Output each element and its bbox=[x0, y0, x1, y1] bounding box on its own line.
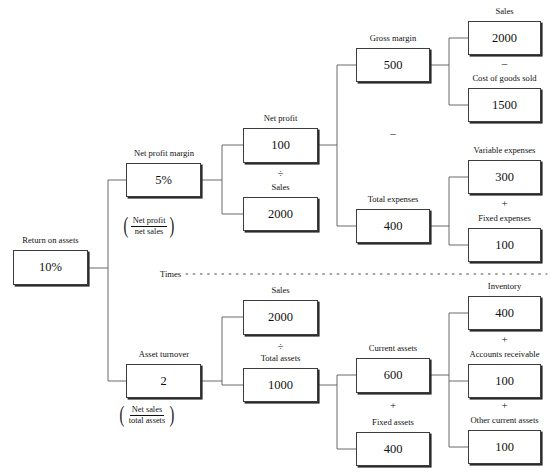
caption-return-on-assets: Return on assets bbox=[13, 236, 88, 245]
operator-divide-asset-turnover: ÷ bbox=[243, 341, 318, 352]
caption-net-profit: Net profit bbox=[243, 114, 318, 123]
node-total-expenses[interactable]: 400 bbox=[356, 209, 430, 243]
caption-total-expenses: Total expenses bbox=[350, 195, 436, 204]
operator-plus-current-fixed-assets: + bbox=[356, 400, 430, 411]
node-sales-bottom[interactable]: 2000 bbox=[243, 300, 318, 335]
node-return-on-assets[interactable]: 10% bbox=[13, 250, 88, 285]
formula-denominator-npm: net sales bbox=[133, 227, 166, 237]
operator-divide-net-profit-margin: ÷ bbox=[243, 168, 318, 179]
operator-plus-accounts-receivable-other: + bbox=[468, 400, 541, 411]
caption-variable-expenses: Variable expenses bbox=[452, 146, 551, 155]
operator-minus-gross-margin-total-expenses: – bbox=[356, 128, 430, 139]
operator-plus-inventory-accounts-receivable: + bbox=[468, 334, 541, 345]
node-variable-expenses[interactable]: 300 bbox=[468, 160, 541, 194]
node-other-current-assets[interactable]: 100 bbox=[468, 430, 541, 464]
caption-total-assets: Total assets bbox=[243, 354, 318, 363]
caption-sales-bottom: Sales bbox=[243, 286, 318, 295]
operator-plus-variable-fixed-expenses: + bbox=[468, 198, 541, 209]
node-fixed-expenses[interactable]: 100 bbox=[468, 228, 541, 262]
caption-net-profit-margin: Net profit margin bbox=[118, 149, 210, 158]
caption-accounts-receivable: Accounts receivable bbox=[447, 350, 551, 359]
caption-gross-margin: Gross margin bbox=[350, 34, 436, 43]
node-sales-gross-margin[interactable]: 2000 bbox=[468, 21, 541, 55]
operator-minus-sales-cogs: – bbox=[468, 58, 541, 69]
formula-open-paren-npm: ( bbox=[123, 217, 128, 236]
return-on-assets-diagram: Return on assets Net profit margin Net p… bbox=[0, 0, 551, 475]
formula-numerator-npm: Net profit bbox=[131, 216, 168, 227]
formula-net-profit-margin: ( Net profit net sales ) bbox=[122, 216, 176, 236]
caption-fixed-assets: Fixed assets bbox=[350, 418, 436, 427]
caption-inventory: Inventory bbox=[468, 282, 541, 291]
node-total-assets[interactable]: 1000 bbox=[243, 368, 318, 402]
caption-asset-turnover: Asset turnover bbox=[121, 350, 207, 359]
formula-close-paren-at: ) bbox=[170, 406, 175, 425]
caption-cost-of-goods-sold: Cost of goods sold bbox=[447, 74, 551, 83]
node-fixed-assets[interactable]: 400 bbox=[356, 432, 430, 466]
caption-fixed-expenses: Fixed expenses bbox=[456, 214, 551, 223]
node-cost-of-goods-sold[interactable]: 1500 bbox=[468, 88, 541, 122]
formula-asset-turnover: ( Net sales total assets ) bbox=[118, 405, 176, 425]
caption-sales-top: Sales bbox=[243, 183, 318, 192]
node-asset-turnover[interactable]: 2 bbox=[126, 364, 201, 398]
times-divider-label: Times bbox=[160, 269, 181, 279]
formula-denominator-at: total assets bbox=[127, 416, 168, 426]
formula-numerator-at: Net sales bbox=[130, 405, 164, 416]
node-accounts-receivable[interactable]: 100 bbox=[468, 364, 541, 398]
node-gross-margin[interactable]: 500 bbox=[356, 48, 430, 82]
node-sales-top[interactable]: 2000 bbox=[243, 197, 318, 231]
node-inventory[interactable]: 400 bbox=[468, 296, 541, 330]
formula-open-paren-at: ( bbox=[119, 406, 124, 425]
caption-current-assets: Current assets bbox=[350, 344, 436, 353]
node-net-profit-margin[interactable]: 5% bbox=[126, 163, 201, 197]
node-current-assets[interactable]: 600 bbox=[356, 358, 430, 393]
caption-sales-gross-margin: Sales bbox=[468, 7, 541, 16]
formula-close-paren-npm: ) bbox=[170, 217, 175, 236]
caption-other-current-assets: Other current assets bbox=[447, 416, 551, 425]
node-net-profit[interactable]: 100 bbox=[243, 128, 318, 163]
